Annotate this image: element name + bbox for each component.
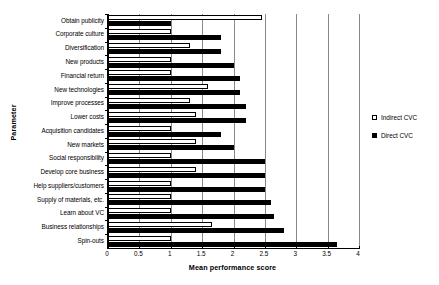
category-label: Acquisition candidates [12,128,104,134]
bar-indirect-cvc [108,222,212,227]
bar-direct-cvc [108,214,274,219]
x-axis-tick-label: 1.5 [197,250,206,258]
chart-legend: Indirect CVC Direct CVC [372,114,438,150]
bar-indirect-cvc [108,194,171,199]
bar-direct-cvc [108,49,221,54]
bar-indirect-cvc [108,70,171,75]
category-label: Financial return [12,73,104,79]
gridline-4 [359,14,360,248]
x-axis-tick-label: 2 [231,250,235,258]
plot-area [107,14,359,249]
gridline-2-5 [265,14,266,248]
category-label: Corporate culture [12,31,104,37]
category-label: Develop core business [12,169,104,175]
x-axis-tick [359,246,360,249]
bar-direct-cvc [108,35,221,40]
bar-indirect-cvc [108,153,171,158]
x-axis-tick-label: 3.5 [322,250,331,258]
legend-item-direct-cvc: Direct CVC [372,132,438,139]
bar-direct-cvc [108,63,234,68]
bar-direct-cvc [108,173,265,178]
category-label: Learn about VC [12,210,104,216]
legend-label-direct-cvc: Direct CVC [381,132,413,139]
bar-direct-cvc [108,187,265,192]
legend-item-indirect-cvc: Indirect CVC [372,114,438,121]
legend-label-indirect-cvc: Indirect CVC [381,114,417,121]
bar-direct-cvc [108,242,337,247]
category-label: Lower costs [12,114,104,120]
bar-indirect-cvc [108,236,171,241]
x-axis-tick-label: 2.5 [259,250,268,258]
bar-direct-cvc [108,145,234,150]
bar-direct-cvc [108,104,246,109]
bar-indirect-cvc [108,208,171,213]
x-axis-title: Mean performance score [107,263,358,272]
x-axis-tick-label: 3 [293,250,297,258]
bar-direct-cvc [108,159,265,164]
category-label: New products [12,59,104,65]
bar-indirect-cvc [108,98,190,103]
bar-indirect-cvc [108,181,171,186]
x-axis-tick-label: 0 [105,250,109,258]
x-axis-tick-label: 4 [356,250,360,258]
gridline-3-5 [328,14,329,248]
bar-indirect-cvc [108,29,171,34]
category-label: New technologies [12,87,104,93]
bar-indirect-cvc [108,112,196,117]
bar-direct-cvc [108,76,240,81]
category-label: Business relationships [12,224,104,230]
category-label: Obtain publicity [12,18,104,24]
bar-direct-cvc [108,200,271,205]
gridline-3 [296,14,297,248]
bar-indirect-cvc [108,167,196,172]
category-label: New markets [12,142,104,148]
bar-chart: Parameter Obtain publicityCorporate cult… [0,0,439,285]
category-label: Diversification [12,45,104,51]
x-axis-tick-labels: 00.511.522.533.54 [107,250,358,262]
bar-direct-cvc [108,90,240,95]
bar-direct-cvc [108,132,221,137]
x-axis-tick-label: 0.5 [134,250,143,258]
bar-direct-cvc [108,21,171,26]
x-axis-tick-label: 1 [168,250,172,258]
bar-indirect-cvc [108,43,190,48]
legend-swatch-filled-square-icon [372,133,377,138]
bar-indirect-cvc [108,139,196,144]
bar-direct-cvc [108,228,284,233]
bar-indirect-cvc [108,57,171,62]
category-label: Help suppliers/customers [12,183,104,189]
bar-indirect-cvc [108,84,208,89]
bar-indirect-cvc [108,15,262,20]
category-label: Social responsibility [12,155,104,161]
bar-indirect-cvc [108,126,171,131]
category-label-column: Obtain publicityCorporate cultureDiversi… [12,14,104,248]
bar-direct-cvc [108,118,246,123]
legend-swatch-hollow-square-icon [372,115,377,120]
category-label: Improve processes [12,100,104,106]
category-label: Supply of materials, etc. [12,197,104,203]
category-label: Spin-outs [12,238,104,244]
gridline-2 [234,14,235,248]
